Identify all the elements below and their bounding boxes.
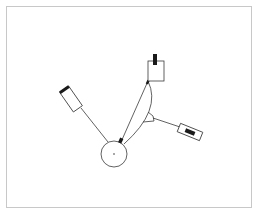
hub-center-dot — [113, 153, 115, 155]
diagram-frame — [7, 7, 252, 208]
top-block-tab — [153, 54, 157, 65]
diagram-svg — [0, 0, 258, 214]
diagram-canvas — [0, 0, 258, 214]
